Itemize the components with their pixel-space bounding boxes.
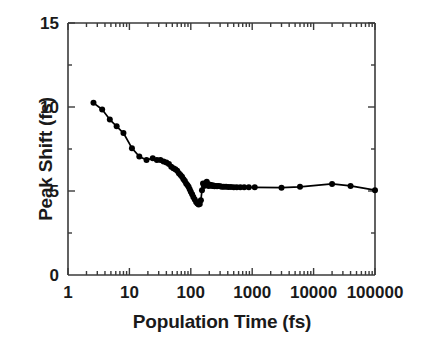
x-tick-label: 100: [177, 283, 205, 302]
y-axis-title: Peak Shift (fs): [35, 69, 57, 249]
axes: [68, 23, 375, 275]
x-tick-label: 1000: [233, 283, 271, 302]
x-tick-label: 1: [63, 283, 72, 302]
tick-labels: 110100100010000100000051015: [40, 14, 403, 302]
tick-marks: [68, 23, 375, 275]
y-tick-label: 15: [40, 14, 59, 33]
x-tick-label: 10000: [290, 283, 337, 302]
x-tick-label: 100000: [347, 283, 404, 302]
data-series: [90, 100, 378, 208]
figure-container: 110100100010000100000051015 Peak Shift (…: [0, 0, 428, 347]
x-axis-title: Population Time (fs): [68, 311, 376, 333]
peak-shift-plot: 110100100010000100000051015: [0, 0, 428, 347]
y-tick-label: 0: [50, 266, 59, 285]
x-tick-label: 10: [120, 283, 139, 302]
